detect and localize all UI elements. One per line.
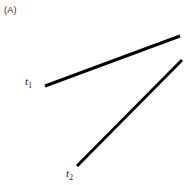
figure-panel: (A) t1 t2 [0, 0, 194, 185]
curve-label-t2-subscript: 2 [69, 173, 73, 182]
curve-label-t1: t1 [25, 75, 32, 89]
panel-label: (A) [4, 5, 17, 16]
figure-canvas [0, 0, 194, 185]
curve-label-t2: t2 [66, 167, 73, 181]
figure-background [0, 0, 194, 185]
curve-label-t1-subscript: 1 [28, 81, 32, 90]
